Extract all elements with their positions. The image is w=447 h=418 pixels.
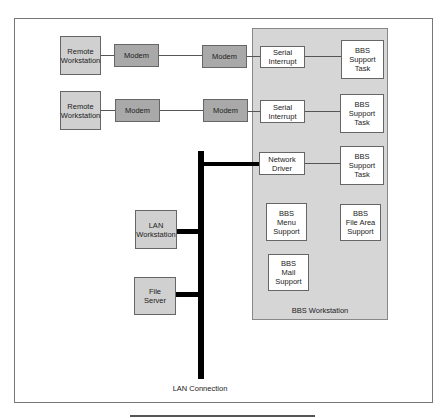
bbs-workstation-label: BBS Workstation	[252, 306, 388, 315]
connector-line	[247, 111, 260, 112]
serial-interrupt-2: Serial Interrupt	[260, 100, 305, 123]
bottom-rule	[130, 415, 315, 417]
bbs-support-task-1: BBS Support Task	[341, 40, 384, 79]
connector-line	[304, 163, 341, 164]
file-server: File Server	[134, 277, 176, 315]
modem-local-1: Modem	[114, 44, 159, 67]
serial-interrupt-1: Serial Interrupt	[260, 46, 305, 68]
modem-local-2: Modem	[115, 99, 160, 122]
remote-workstation-2: Remote Workstation	[60, 91, 101, 130]
lan-connection-label: LAN Connection	[160, 384, 240, 393]
lan-bus	[198, 151, 204, 379]
network-driver: Network Driver	[259, 152, 305, 175]
connector-line	[100, 110, 115, 111]
modem-remote-1: Modem	[202, 45, 247, 68]
lan-branch-network-driver	[204, 162, 260, 166]
connector-line	[304, 111, 341, 112]
connector-line	[246, 56, 260, 57]
lan-branch-file-server	[175, 292, 198, 297]
bbs-support-task-2: BBS Support Task	[340, 94, 384, 133]
bbs-mail-support: BBS Mail Support	[268, 254, 309, 291]
connector-line	[100, 55, 114, 56]
connector-line	[304, 56, 341, 57]
lan-workstation: LAN Workstation	[135, 210, 177, 249]
modem-remote-2: Modem	[203, 99, 248, 122]
bbs-file-area-support: BBS File Area Support	[340, 204, 381, 241]
bbs-menu-support: BBS Menu Support	[266, 203, 307, 241]
connector-line	[159, 110, 203, 111]
lan-branch-lan-workstation	[176, 229, 198, 234]
connector-line	[158, 55, 202, 56]
bbs-support-task-3: BBS Support Task	[340, 146, 384, 185]
remote-workstation-1: Remote Workstation	[60, 36, 101, 75]
